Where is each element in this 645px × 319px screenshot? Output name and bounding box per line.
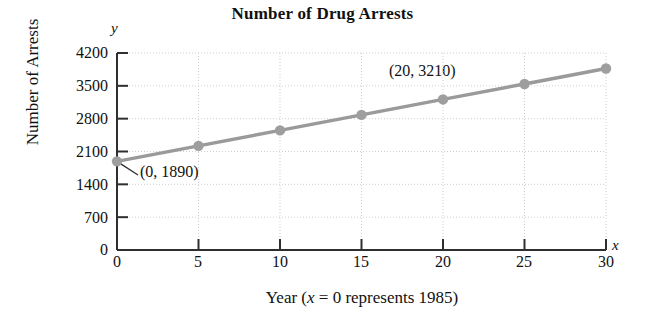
- plot-area: [0, 0, 645, 319]
- chart-figure: Number of Drug Arrests Number of Arrests…: [0, 0, 645, 319]
- annotation-leader-lines: [120, 163, 138, 175]
